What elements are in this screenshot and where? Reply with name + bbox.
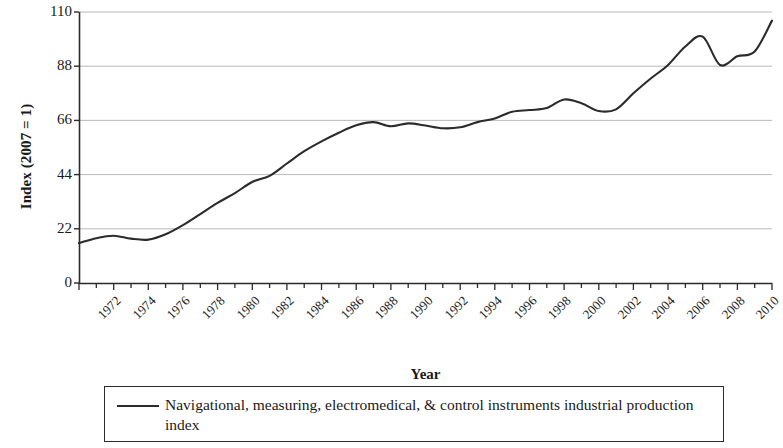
data-line-series-0 bbox=[79, 21, 772, 243]
axis-ticks bbox=[74, 12, 772, 290]
x-axis-title: Year bbox=[79, 366, 772, 383]
y-tick-label: 110 bbox=[32, 4, 72, 19]
gridlines bbox=[79, 12, 772, 229]
y-tick-label: 88 bbox=[32, 58, 72, 73]
y-tick-label: 44 bbox=[32, 167, 72, 182]
legend-box: Navigational, measuring, electromedical,… bbox=[104, 386, 724, 442]
y-tick-label: 22 bbox=[32, 221, 72, 236]
y-tick-label: 66 bbox=[32, 112, 72, 127]
y-axis-tick-labels: 022446688110 bbox=[24, 0, 72, 300]
legend-entry-label: Navigational, measuring, electromedical,… bbox=[165, 395, 713, 435]
y-tick-label: 0 bbox=[32, 275, 72, 290]
legend-line-marker-icon bbox=[117, 405, 159, 407]
chart-figure: Index (2007 = 1) Year 022446688110 19721… bbox=[0, 0, 783, 448]
